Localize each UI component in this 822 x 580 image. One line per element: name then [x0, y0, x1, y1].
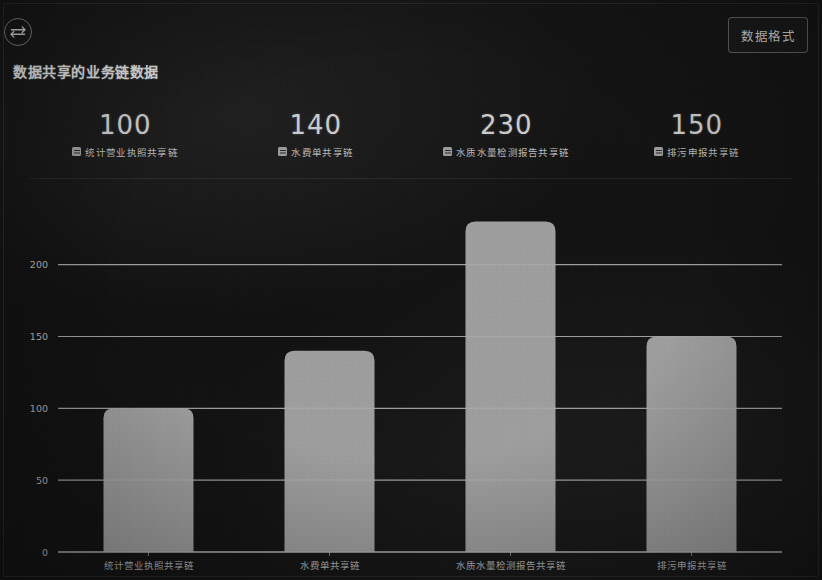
bar[interactable]	[104, 408, 194, 552]
stat-card-3[interactable]: 150 排污申报共享链	[602, 93, 793, 178]
stats-summary-panel: 100 统计营业执照共享链 140 水费单共享链 230 水质水量检测报告共享链…	[30, 93, 792, 178]
stat-value: 230	[480, 112, 533, 139]
bar-chart-svg: 050100150200统计营业执照共享链水费单共享链水质水量检测报告共享链排污…	[0, 182, 822, 580]
stat-label-row: 排污申报共享链	[654, 145, 739, 159]
x-axis-tick-label: 排污申报共享链	[657, 560, 727, 571]
legend-swatch-icon	[654, 147, 663, 156]
section-divider	[30, 178, 792, 179]
y-axis-tick-label: 50	[36, 475, 48, 486]
bar[interactable]	[647, 336, 737, 552]
stat-label-row: 统计营业执照共享链	[72, 145, 178, 159]
stat-card-0[interactable]: 100 统计营业执照共享链	[30, 93, 221, 178]
y-axis-tick-label: 100	[30, 403, 48, 414]
y-axis-tick-label: 150	[30, 331, 48, 342]
bar[interactable]	[466, 222, 556, 552]
x-axis-tick-label: 水质水量检测报告共享链	[456, 560, 566, 571]
stat-value: 100	[99, 112, 152, 139]
x-axis-tick-label: 水费单共享链	[300, 560, 360, 571]
x-axis-tick-label: 统计营业执照共享链	[104, 560, 194, 571]
stat-label: 统计营业执照共享链	[85, 145, 178, 159]
swap-vertical-icon[interactable]	[4, 18, 32, 46]
page-title: 数据共享的业务链数据	[13, 61, 159, 81]
stat-value: 140	[289, 112, 342, 139]
stat-value: 150	[670, 112, 723, 139]
y-axis-tick-label: 200	[30, 259, 48, 270]
stat-label: 水质水量检测报告共享链	[456, 145, 569, 159]
stat-card-2[interactable]: 230 水质水量检测报告共享链	[411, 93, 602, 178]
y-axis-tick-label: 0	[42, 547, 48, 558]
legend-swatch-icon	[278, 147, 287, 156]
bar-chart: 050100150200统计营业执照共享链水费单共享链水质水量检测报告共享链排污…	[0, 182, 822, 580]
app-root: 数据格式 数据共享的业务链数据 100 统计营业执照共享链 140 水费单共享链…	[0, 0, 822, 580]
data-format-button[interactable]: 数据格式	[728, 17, 808, 53]
legend-swatch-icon	[72, 147, 81, 156]
stat-label: 排污申报共享链	[667, 145, 739, 159]
stat-label: 水费单共享链	[291, 145, 353, 159]
bar[interactable]	[285, 351, 375, 552]
stat-card-1[interactable]: 140 水费单共享链	[221, 93, 412, 178]
legend-swatch-icon	[443, 147, 452, 156]
stat-label-row: 水费单共享链	[278, 145, 353, 159]
stat-label-row: 水质水量检测报告共享链	[443, 145, 569, 159]
